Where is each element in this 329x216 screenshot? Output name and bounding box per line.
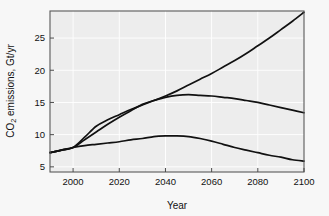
y-tick-label: 5	[40, 161, 45, 172]
x-tick-label: 2100	[293, 176, 314, 187]
x-tick-label: 2040	[155, 176, 176, 187]
y-tick-label: 15	[34, 97, 45, 108]
y-tick-label: 20	[34, 65, 45, 76]
x-axis-title: Year	[167, 200, 188, 211]
x-tick-label: 2080	[247, 176, 268, 187]
chart-canvas: 200020202040206020802100 510152025 Year …	[0, 0, 329, 216]
y-tick-label: 10	[34, 129, 45, 140]
co2-emissions-chart: 200020202040206020802100 510152025 Year …	[0, 0, 329, 216]
y-axis-title-post: emissions, Gt/yr	[5, 44, 16, 119]
y-tick-label: 25	[34, 32, 45, 43]
y-axis-title-pre: CO	[5, 123, 16, 138]
x-tick-label: 2000	[63, 176, 84, 187]
x-tick-label: 2060	[201, 176, 222, 187]
x-tick-label: 2020	[109, 176, 130, 187]
